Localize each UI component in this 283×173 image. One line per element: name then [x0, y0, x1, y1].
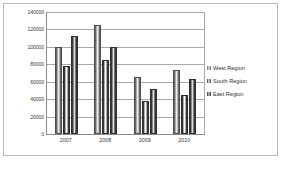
y-axis-tick-label: 100000 — [28, 44, 44, 50]
legend-item[interactable]: East Region — [207, 87, 275, 100]
plot-area — [46, 12, 205, 135]
bar — [142, 101, 149, 134]
bar — [150, 89, 157, 134]
bar — [110, 47, 117, 134]
bar — [55, 47, 62, 134]
bar-group — [94, 12, 118, 134]
y-axis-tick-label: 20000 — [30, 114, 44, 120]
bar — [173, 70, 180, 134]
x-axis-tick-label: 2008 — [99, 137, 111, 143]
x-axis-tick-label: 2007 — [60, 137, 72, 143]
legend-item-label: West Region — [213, 65, 245, 71]
chart-frame: 020000400006000080000100000120000140000 … — [3, 3, 278, 156]
legend-item[interactable]: South Region — [207, 74, 275, 87]
bar — [71, 36, 78, 134]
bar — [189, 79, 196, 134]
legend-item[interactable]: West Region — [207, 61, 275, 74]
legend-swatch-icon — [207, 66, 211, 70]
bar — [63, 66, 70, 134]
legend-item-label: East Region — [213, 91, 243, 97]
bar — [102, 60, 109, 134]
chart-legend: West RegionSouth RegionEast Region — [207, 61, 275, 100]
y-axis-tick-label: 120000 — [28, 26, 44, 32]
y-axis-tick-label: 140000 — [28, 9, 44, 15]
y-axis: 020000400006000080000100000120000140000 — [10, 12, 44, 134]
legend-item-label: South Region — [213, 78, 247, 84]
legend-swatch-icon — [207, 79, 211, 83]
bar-group — [173, 12, 197, 134]
bar — [181, 95, 188, 134]
bars-layer — [47, 12, 205, 134]
y-axis-tick-label: 0 — [41, 131, 44, 137]
chart-plot-wrapper: 020000400006000080000100000120000140000 … — [4, 4, 277, 155]
x-axis-tick-label: 2009 — [139, 137, 151, 143]
legend-swatch-icon — [207, 92, 211, 96]
bar-group — [55, 12, 79, 134]
y-axis-tick-label: 60000 — [30, 79, 44, 85]
x-axis-tick-label: 2010 — [178, 137, 190, 143]
y-axis-tick-label: 40000 — [30, 96, 44, 102]
y-axis-tick-label: 80000 — [30, 61, 44, 67]
bar-group — [134, 12, 158, 134]
bar — [94, 25, 101, 134]
x-axis: 2007200820092010 — [46, 137, 204, 149]
bar — [134, 77, 141, 134]
